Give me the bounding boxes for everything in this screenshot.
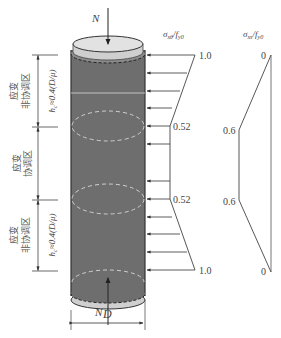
column-body	[71, 50, 145, 296]
hoop-value-lower-mid: 0.52	[173, 194, 191, 205]
svg-text:应变: 应变	[8, 226, 19, 244]
hoop-value-top: 1.0	[199, 50, 212, 61]
axial-value-bottom: 0	[261, 266, 266, 277]
height-label-upper: hc≈0.4(D/μ)	[47, 70, 58, 113]
diameter-label: D	[102, 307, 112, 321]
hoop-value-bottom: 1.0	[199, 265, 212, 276]
zone-label-lower: 应变 非协调区 hc≈0.4(D/μ)	[8, 214, 58, 257]
zone-label-middle: 应变 协调区	[11, 150, 33, 177]
svg-text:非协调区: 非协调区	[20, 73, 31, 109]
axial-value-top: 0	[261, 50, 266, 61]
svg-text:应变: 应变	[8, 82, 19, 100]
hoop-value-upper-mid: 0.52	[173, 121, 191, 132]
hoop-stress-arrows	[147, 55, 195, 270]
load-label-top: N	[91, 12, 100, 24]
axial-value-upper-mid: 0.6	[223, 125, 236, 136]
load-label-bottom: N	[94, 306, 103, 318]
axial-value-lower-mid: 0.6	[223, 196, 236, 207]
steel-tube-column	[71, 36, 145, 309]
svg-text:应变: 应变	[11, 154, 22, 172]
hoop-stress-profile: σxθ/fy0 1.0 0.52 0.52 1.0	[163, 29, 212, 276]
hoop-axis-label: σxθ/fy0	[163, 29, 184, 40]
cfst-column-stress-diagram: N N D σxθ/fy0 1.0 0.52 0.52 1.0	[0, 0, 281, 338]
axial-axis-label: σxs/fy0	[243, 29, 263, 40]
axial-stress-profile: σxs/fy0 0 0.6 0.6 0	[223, 29, 271, 277]
svg-text:非协调区: 非协调区	[20, 217, 31, 253]
height-label-lower: hc≈0.4(D/μ)	[47, 214, 58, 257]
zone-label-upper: 应变 非协调区 hc≈0.4(D/μ)	[8, 70, 58, 113]
svg-text:协调区: 协调区	[22, 150, 33, 177]
